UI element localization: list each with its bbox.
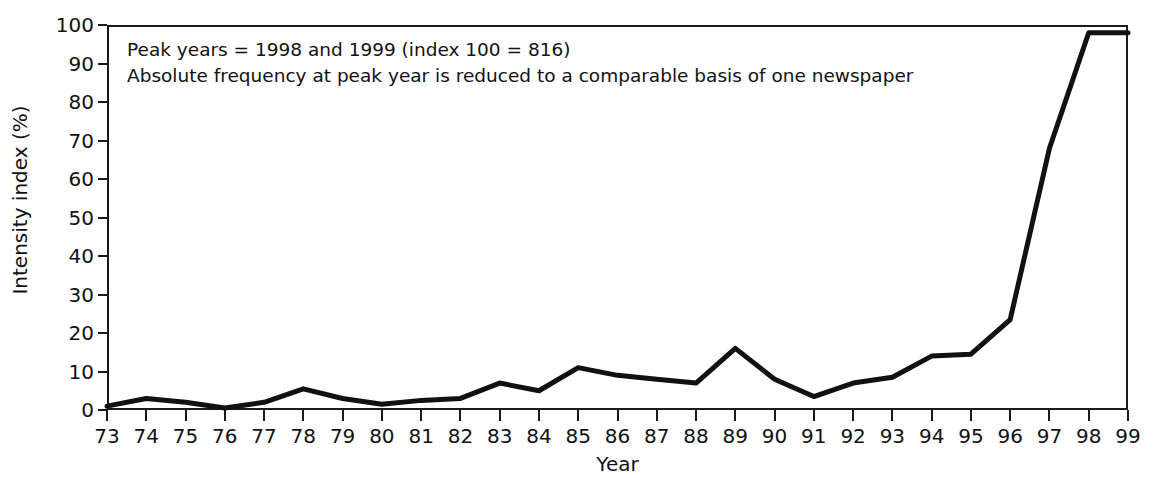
series-polyline [107,33,1128,408]
plot-area: 0102030405060708090100 73747576777879808… [107,25,1128,410]
x-axis-tick-label: 90 [755,426,795,446]
y-axis-tick-label: 70 [30,131,94,151]
y-axis-tick-label: 30 [30,285,94,305]
y-axis-tick [98,140,107,142]
x-axis-tick-label: 84 [519,426,559,446]
x-axis-tick-label: 85 [558,426,598,446]
x-axis-tick [224,410,226,421]
annotation-line-2: Absolute frequency at peak year is reduc… [127,63,913,89]
x-axis-tick [1009,410,1011,421]
x-axis-tick [538,410,540,421]
chart-annotation: Peak years = 1998 and 1999 (index 100 = … [127,37,913,89]
x-axis-tick [499,410,501,421]
chart-figure: Intensity index (%) 01020304050607080901… [0,0,1169,478]
x-axis-tick [145,410,147,421]
x-axis-tick [342,410,344,421]
y-axis-tick [98,217,107,219]
x-axis-tick-label: 96 [990,426,1030,446]
x-axis-tick [931,410,933,421]
x-axis-tick [577,410,579,421]
x-axis-tick-label: 77 [244,426,284,446]
x-axis-tick-label: 92 [833,426,873,446]
x-axis-tick [302,410,304,421]
x-axis-tick-label: 75 [166,426,206,446]
x-axis-tick-label: 73 [87,426,127,446]
x-axis-tick-label: 99 [1108,426,1148,446]
y-axis-tick-label: 10 [30,362,94,382]
y-axis-tick-label: 0 [30,400,94,420]
x-axis-tick [1048,410,1050,421]
x-axis-tick-label: 94 [912,426,952,446]
x-axis-tick [1127,410,1129,421]
y-axis-tick [98,178,107,180]
x-axis-tick [656,410,658,421]
x-axis-tick-label: 78 [283,426,323,446]
x-axis-tick-label: 93 [872,426,912,446]
x-axis-tick-label: 74 [126,426,166,446]
x-axis-tick [970,410,972,421]
x-axis-tick-label: 81 [401,426,441,446]
x-axis-tick [813,410,815,421]
y-axis-tick [98,63,107,65]
y-axis-tick-label: 90 [30,54,94,74]
x-axis-tick [459,410,461,421]
x-axis-tick-label: 95 [951,426,991,446]
x-axis-tick [263,410,265,421]
y-axis-tick [98,294,107,296]
y-axis-tick [98,371,107,373]
x-axis-tick-label: 82 [440,426,480,446]
y-axis-tick-label: 80 [30,92,94,112]
y-axis-tick [98,332,107,334]
x-axis-tick [695,410,697,421]
x-axis-tick [617,410,619,421]
x-axis-tick-label: 91 [794,426,834,446]
x-axis-tick-label: 79 [323,426,363,446]
x-axis-tick-label: 86 [598,426,638,446]
x-axis-tick-label: 87 [637,426,677,446]
x-axis-tick [891,410,893,421]
y-axis-tick-label: 40 [30,246,94,266]
x-axis-tick-label: 76 [205,426,245,446]
x-axis-tick [852,410,854,421]
annotation-line-1: Peak years = 1998 and 1999 (index 100 = … [127,37,913,63]
x-axis-tick [774,410,776,421]
y-axis-tick-label: 20 [30,323,94,343]
x-axis-tick [734,410,736,421]
x-axis-tick [185,410,187,421]
y-axis-tick [98,255,107,257]
y-axis-tick [98,101,107,103]
x-axis-tick-label: 97 [1029,426,1069,446]
y-axis-tick-label: 50 [30,208,94,228]
y-axis-tick [98,24,107,26]
x-axis-title: Year [107,452,1128,476]
y-axis-tick-label: 100 [30,15,94,35]
x-axis-tick [1088,410,1090,421]
x-axis-tick-label: 98 [1069,426,1109,446]
x-axis-tick-label: 83 [480,426,520,446]
y-axis-tick-label: 60 [30,169,94,189]
x-axis-tick [106,410,108,421]
x-axis-tick [381,410,383,421]
x-axis-tick-label: 88 [676,426,716,446]
x-axis-tick-label: 80 [362,426,402,446]
x-axis-tick-label: 89 [715,426,755,446]
x-axis-tick [420,410,422,421]
